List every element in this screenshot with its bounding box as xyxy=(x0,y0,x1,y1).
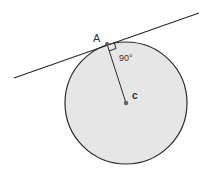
center-dot xyxy=(124,101,128,105)
label-angle: 90° xyxy=(119,53,133,63)
label-center: c xyxy=(132,90,138,101)
point-a-dot xyxy=(105,42,109,46)
tangent-diagram: A 90° c xyxy=(0,0,209,173)
label-point-a: A xyxy=(93,32,101,44)
